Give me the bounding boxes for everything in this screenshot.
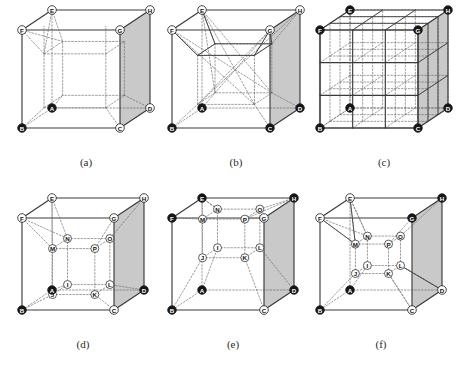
vertex-label: B bbox=[318, 125, 323, 132]
inner-node-k: K bbox=[385, 270, 393, 278]
inner-node-label: N bbox=[365, 233, 370, 240]
vertex-e: E bbox=[198, 194, 207, 203]
inner-node-label: K bbox=[93, 291, 98, 298]
inner-node-p: P bbox=[241, 215, 249, 223]
vertex-f: F bbox=[168, 214, 177, 223]
panel-caption-d: (d) bbox=[77, 338, 90, 351]
inner-node-k: K bbox=[91, 291, 99, 299]
vertex-label: C bbox=[262, 307, 267, 314]
vertex-c: C bbox=[408, 306, 417, 315]
inner-node-l: L bbox=[106, 281, 114, 289]
inner-node-label: M bbox=[353, 241, 358, 248]
vertex-label: D bbox=[440, 287, 445, 294]
inner-node-m: M bbox=[199, 215, 207, 223]
vertex-label: E bbox=[200, 195, 204, 202]
vertex-label: G bbox=[118, 27, 123, 34]
vertex-label: F bbox=[170, 27, 174, 34]
panel-caption-e: (e) bbox=[227, 338, 240, 351]
vertex-label: H bbox=[298, 7, 303, 14]
vertex-e: E bbox=[48, 6, 57, 15]
vertex-label: H bbox=[148, 7, 153, 14]
vertex-label: B bbox=[20, 307, 25, 314]
panel-caption-c: (c) bbox=[378, 156, 391, 169]
inner-node-label: L bbox=[399, 262, 403, 269]
vertex-f: F bbox=[18, 214, 27, 223]
vertex-label: E bbox=[50, 7, 54, 14]
inner-node-label: I bbox=[217, 244, 219, 251]
vertex-c: C bbox=[414, 124, 423, 133]
inner-node-n: N bbox=[214, 205, 222, 213]
vertex-e: E bbox=[346, 194, 355, 203]
vertex-a: A bbox=[198, 286, 207, 295]
vertex-h: H bbox=[290, 194, 299, 203]
vertex-label: F bbox=[170, 215, 174, 222]
vertex-e: E bbox=[346, 6, 355, 15]
inner-node-label: M bbox=[200, 216, 205, 223]
vertex-h: H bbox=[296, 6, 305, 15]
vertex-label: D bbox=[446, 105, 451, 112]
shaded-right-face bbox=[418, 10, 448, 128]
vertex-d: D bbox=[296, 104, 305, 113]
vertex-label: C bbox=[416, 125, 421, 132]
inner-node-j: J bbox=[199, 254, 207, 262]
vertex-label: C bbox=[112, 307, 117, 314]
vertex-d: D bbox=[146, 104, 155, 113]
cube-subdivision-figure: ABCDEFGHABCDEFGHABCDEFGHJKILNOMPABCDEFGH… bbox=[0, 0, 456, 368]
inner-node-label: L bbox=[108, 281, 112, 288]
vertex-h: H bbox=[146, 6, 155, 15]
vertex-a: A bbox=[48, 286, 57, 295]
vertex-label: C bbox=[410, 307, 415, 314]
vertex-label: G bbox=[268, 27, 273, 34]
vertex-label: B bbox=[318, 307, 323, 314]
inner-node-label: J bbox=[201, 254, 205, 261]
vertex-label: H bbox=[292, 195, 297, 202]
vertex-f: F bbox=[18, 26, 27, 35]
vertex-label: B bbox=[20, 125, 25, 132]
vertex-g: G bbox=[110, 214, 119, 223]
vertex-label: F bbox=[318, 215, 322, 222]
inner-node-label: O bbox=[107, 235, 112, 242]
vertex-c: C bbox=[266, 124, 275, 133]
inner-node-label: P bbox=[243, 216, 247, 223]
vertex-a: A bbox=[48, 104, 57, 113]
vertex-b: B bbox=[316, 306, 325, 315]
vertex-label: G bbox=[416, 27, 421, 34]
inner-node-i: I bbox=[214, 244, 222, 252]
vertex-label: D bbox=[148, 105, 153, 112]
inner-node-label: O bbox=[398, 233, 403, 240]
vertex-label: B bbox=[170, 307, 175, 314]
vertex-g: G bbox=[116, 26, 125, 35]
vertex-label: A bbox=[200, 287, 205, 294]
vertex-label: A bbox=[50, 105, 55, 112]
vertex-label: C bbox=[268, 125, 273, 132]
vertex-label: E bbox=[200, 7, 204, 14]
vertex-c: C bbox=[110, 306, 119, 315]
vertex-f: F bbox=[316, 26, 325, 35]
vertex-b: B bbox=[18, 124, 27, 133]
inner-node-k: K bbox=[241, 254, 249, 262]
vertex-b: B bbox=[18, 306, 27, 315]
vertex-b: B bbox=[168, 306, 177, 315]
inner-node-label: K bbox=[386, 270, 391, 277]
panel-caption-a: (a) bbox=[80, 156, 93, 169]
vertex-g: G bbox=[260, 214, 269, 223]
vertex-d: D bbox=[290, 286, 299, 295]
vertex-label: A bbox=[200, 105, 205, 112]
inner-node-label: P bbox=[93, 245, 97, 252]
panel-caption-b: (b) bbox=[230, 156, 243, 169]
vertex-label: A bbox=[348, 105, 353, 112]
vertex-g: G bbox=[408, 214, 417, 223]
inner-node-label: M bbox=[50, 245, 55, 252]
inner-node-l: L bbox=[256, 244, 264, 252]
inner-node-p: P bbox=[385, 240, 393, 248]
vertex-label: H bbox=[142, 195, 147, 202]
vertex-label: A bbox=[50, 287, 55, 294]
vertex-a: A bbox=[198, 104, 207, 113]
vertex-label: D bbox=[298, 105, 303, 112]
inner-node-p: P bbox=[91, 245, 99, 253]
vertex-g: G bbox=[266, 26, 275, 35]
vertex-label: F bbox=[318, 27, 322, 34]
shaded-right-face bbox=[270, 10, 300, 128]
inner-node-label: K bbox=[243, 254, 248, 261]
inner-node-label: N bbox=[65, 235, 70, 242]
